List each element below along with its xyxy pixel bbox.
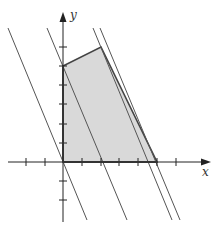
y-axis-label: y bbox=[69, 8, 77, 22]
feasible-region-diagram: x y bbox=[0, 0, 213, 231]
feasible-region bbox=[63, 47, 157, 162]
y-axis-arrow-icon bbox=[60, 12, 67, 22]
x-axis-label: x bbox=[202, 165, 209, 179]
